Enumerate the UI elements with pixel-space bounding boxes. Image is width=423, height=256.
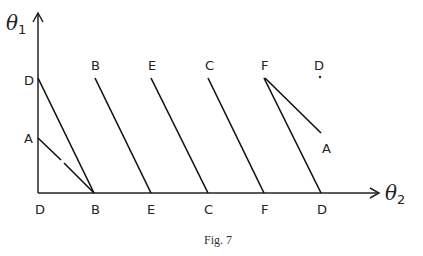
point-D (319, 76, 321, 78)
left-label: A (24, 131, 33, 146)
bottom-label: D (317, 202, 327, 217)
axes (33, 13, 379, 198)
figure-caption: Fig. 7 (204, 233, 232, 247)
line-F-D (264, 78, 321, 193)
diagonal-lines (38, 78, 321, 193)
bottom-label: E (147, 202, 155, 217)
left-label: D (24, 73, 34, 88)
line-A-B-upper (38, 138, 61, 160)
top-label: F (261, 58, 268, 73)
top-label: B (91, 58, 100, 73)
x-axis-label: θ2 (385, 181, 405, 207)
bottom-label: B (91, 202, 100, 217)
line-A-B-lower (64, 163, 94, 193)
bottom-label: C (204, 202, 213, 217)
line-C-F (208, 78, 264, 193)
bottom-label: D (35, 202, 45, 217)
bottom-label: F (261, 202, 268, 217)
diagram: θ1 θ2 B E C F D D A D B E C F D A Fig. 7 (0, 0, 423, 256)
y-axis-label: θ1 (6, 11, 26, 37)
top-label: C (205, 58, 214, 73)
end-label-A: A (322, 141, 331, 156)
top-label: E (148, 58, 156, 73)
line-E-C (151, 78, 208, 193)
line-F-A (265, 78, 321, 133)
top-label: D (314, 58, 324, 73)
line-D-B (38, 78, 94, 193)
line-B-E (95, 78, 151, 193)
